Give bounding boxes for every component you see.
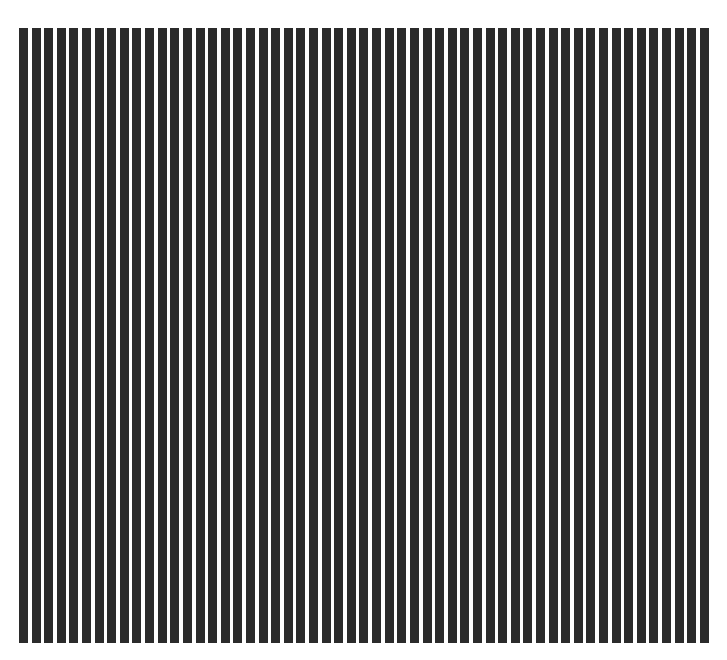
stripe-bar bbox=[259, 28, 268, 643]
stripe-bar bbox=[284, 28, 293, 643]
stripe-bar bbox=[32, 28, 41, 643]
stripe-bar bbox=[183, 28, 192, 643]
stripe-bar bbox=[662, 28, 671, 643]
stripe-bar bbox=[120, 28, 129, 643]
stripe-bar bbox=[221, 28, 230, 643]
stripe-bar bbox=[334, 28, 343, 643]
stripe-bar bbox=[145, 28, 154, 643]
stripe-bar bbox=[132, 28, 141, 643]
stripe-bar bbox=[687, 28, 696, 643]
stripe-bar bbox=[586, 28, 595, 643]
stripe-bar bbox=[347, 28, 356, 643]
stripe-bar bbox=[511, 28, 520, 643]
stripe-bar bbox=[523, 28, 532, 643]
stripe-bar bbox=[69, 28, 78, 643]
stripe-bar bbox=[95, 28, 104, 643]
stripe-bar bbox=[486, 28, 495, 643]
stripe-bar bbox=[624, 28, 633, 643]
stripe-bar bbox=[561, 28, 570, 643]
stripe-bar bbox=[473, 28, 482, 643]
stripe-bar bbox=[397, 28, 406, 643]
stripe-bar bbox=[322, 28, 331, 643]
stripe-bar bbox=[536, 28, 545, 643]
stripe-bar bbox=[170, 28, 179, 643]
stripe-bar bbox=[423, 28, 432, 643]
stripe-bar bbox=[435, 28, 444, 643]
stripe-bar bbox=[410, 28, 419, 643]
stripe-bar bbox=[19, 28, 28, 643]
stripe-bar bbox=[44, 28, 53, 643]
stripe-bar bbox=[57, 28, 66, 643]
stripe-bar bbox=[372, 28, 381, 643]
stripe-bar bbox=[246, 28, 255, 643]
stripe-bar bbox=[233, 28, 242, 643]
stripe-bar bbox=[158, 28, 167, 643]
stripe-bar bbox=[637, 28, 646, 643]
stripe-bar bbox=[271, 28, 280, 643]
stripe-bar bbox=[675, 28, 684, 643]
stripe-bar bbox=[208, 28, 217, 643]
stripe-bar bbox=[599, 28, 608, 643]
stripe-bar bbox=[309, 28, 318, 643]
stripe-bar bbox=[649, 28, 658, 643]
stripe-bar bbox=[612, 28, 621, 643]
stripe-bar bbox=[359, 28, 368, 643]
stripe-bar bbox=[296, 28, 305, 643]
stripe-bar bbox=[574, 28, 583, 643]
stripe-bar bbox=[498, 28, 507, 643]
stripe-bar bbox=[196, 28, 205, 643]
stripe-bar bbox=[700, 28, 709, 643]
stripe-bar bbox=[385, 28, 394, 643]
stripe-pattern bbox=[19, 28, 709, 643]
stripe-bar bbox=[82, 28, 91, 643]
stripe-bar bbox=[549, 28, 558, 643]
stripe-bar bbox=[107, 28, 116, 643]
stripe-bar bbox=[448, 28, 457, 643]
stripe-bar bbox=[460, 28, 469, 643]
